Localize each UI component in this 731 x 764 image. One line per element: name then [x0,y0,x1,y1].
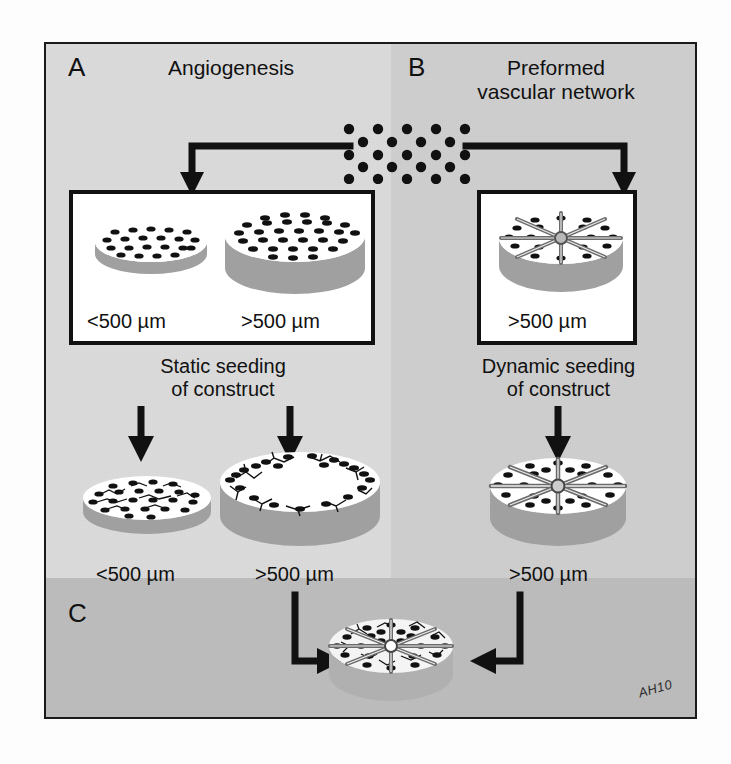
result-label-b: >500 µm [509,563,588,586]
dynamic-seeding-line1: Dynamic seeding [456,355,661,378]
panel-a-heading: Angiogenesis [106,56,356,80]
static-seeding-line2: of construct [103,378,343,401]
construct-b-result [484,448,632,564]
scaffold-disc-a-large [221,202,369,307]
panel-letter-b: B [408,54,425,80]
scaffold-disc-b-channels [495,204,627,306]
arrow-down-a-small [127,406,155,464]
cell-cluster [341,122,471,188]
arrow-b-to-panel-c [464,593,526,677]
scaffold-disc-a-small [91,216,211,286]
result-label-a-large: >500 µm [255,563,334,586]
panel-b-heading-line1: Preformed [446,56,666,80]
construct-a-small-result [77,468,217,548]
panel-letter-a: A [68,54,85,80]
panel-b-box-label: >500 µm [508,310,587,333]
panel-a-scaffold-box: <500 µm >500 µm [69,190,375,345]
panel-a-box-label-small: <500 µm [87,310,166,333]
dynamic-seeding-line2: of construct [456,378,661,401]
panel-b-scaffold-box: >500 µm [477,190,637,345]
result-label-a-small: <500 µm [96,563,175,586]
panel-letter-c: C [68,600,87,626]
static-seeding-line1: Static seeding [103,355,343,378]
panel-a-box-label-large: >500 µm [241,310,320,333]
figure-frame: A Angiogenesis B Preformed vascular netw… [44,42,697,719]
construct-a-large-result [214,442,386,564]
construct-c-combined [323,610,459,719]
panel-b-heading-line2: vascular network [436,80,676,104]
